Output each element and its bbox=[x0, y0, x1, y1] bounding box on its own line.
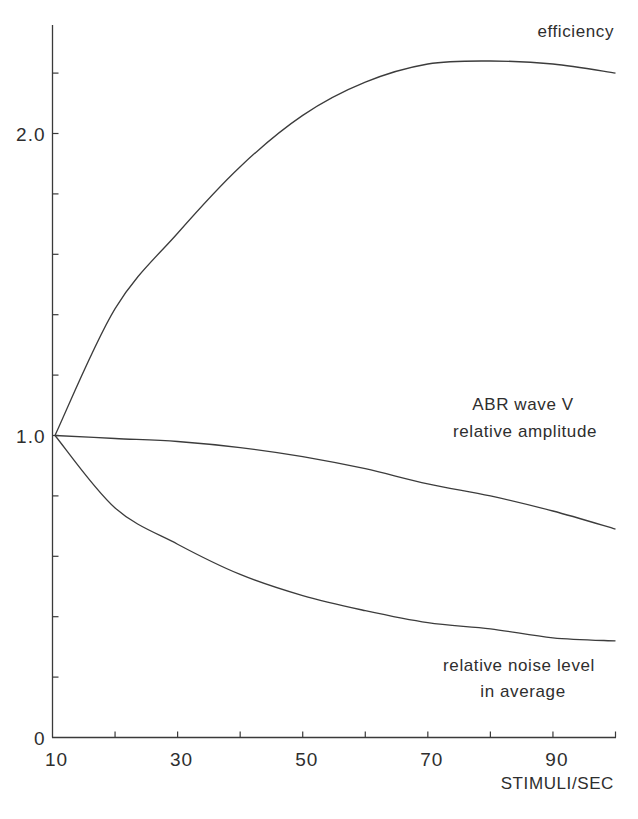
efficiency-curve bbox=[55, 61, 616, 436]
chart: 01.02.0 1030507090 STIMULI/SEC efficienc… bbox=[0, 0, 638, 819]
abr-label-line2: relative amplitude bbox=[453, 422, 597, 441]
noise-label-line2: in average bbox=[480, 682, 565, 701]
abr-amplitude-curve bbox=[55, 436, 616, 530]
efficiency-label: efficiency bbox=[537, 22, 614, 41]
x-tick-label: 70 bbox=[420, 749, 443, 770]
noise-level-curve bbox=[55, 436, 616, 641]
x-tick-label: 50 bbox=[295, 749, 318, 770]
x-tick-label: 90 bbox=[545, 749, 568, 770]
x-tick-label: 10 bbox=[45, 749, 68, 770]
series-curves bbox=[55, 61, 616, 641]
y-tick-label: 2.0 bbox=[16, 124, 45, 145]
series-labels: efficiency ABR wave V relative amplitude… bbox=[443, 22, 614, 701]
y-tick-label: 1.0 bbox=[16, 426, 45, 447]
x-tick-label: 30 bbox=[170, 749, 193, 770]
abr-label-line1: ABR wave V bbox=[472, 395, 573, 414]
x-axis-title: STIMULI/SEC bbox=[501, 774, 614, 793]
y-tick-label: 0 bbox=[34, 728, 46, 749]
noise-label-line1: relative noise level bbox=[443, 656, 595, 675]
